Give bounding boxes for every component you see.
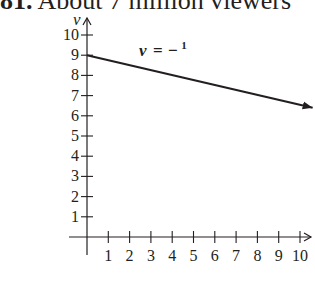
x-tick-label: 10 <box>292 247 308 264</box>
x-tick-label: 2 <box>126 247 134 264</box>
data-series <box>87 55 313 108</box>
y-tick-label: 1 <box>71 208 79 225</box>
x-tick-label: 5 <box>190 247 198 264</box>
y-tick-label: 5 <box>71 127 79 144</box>
y-tick-label: 2 <box>71 188 79 205</box>
axes <box>69 18 311 255</box>
y-tick-label: 3 <box>71 167 79 184</box>
x-tick-label: 8 <box>253 247 261 264</box>
y-tick-label: 7 <box>71 87 79 104</box>
labels: vtv=−1 <box>73 10 315 265</box>
x-tick-label: 7 <box>232 247 240 264</box>
svg-text:−: − <box>168 41 178 60</box>
svg-text:v: v <box>139 41 147 60</box>
x-tick-label: 4 <box>168 247 176 264</box>
y-tick-label: 9 <box>71 46 79 63</box>
x-tick-label: 9 <box>275 247 283 264</box>
equation-label: v=−1 <box>139 39 187 60</box>
x-tick-label: 1 <box>104 247 112 264</box>
line-chart: 1234567891012345678910 vtv=−1 <box>0 0 315 302</box>
y-axis-variable: v <box>73 10 81 29</box>
x-tick-label: 6 <box>211 247 219 264</box>
y-tick-label: 8 <box>71 66 79 83</box>
svg-text:=: = <box>153 41 163 60</box>
ticks: 1234567891012345678910 <box>63 26 308 264</box>
svg-text:1: 1 <box>181 39 187 51</box>
y-tick-label: 6 <box>71 107 79 124</box>
x-tick-label: 3 <box>147 247 155 264</box>
y-tick-label: 4 <box>71 147 79 164</box>
line-series <box>87 55 313 108</box>
